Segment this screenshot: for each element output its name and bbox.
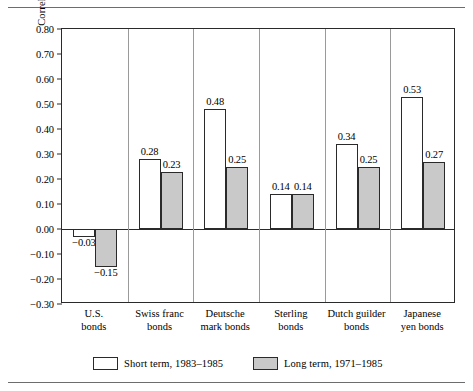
chart-plot-area: Correlation coefficient 0.800.700.600.50… xyxy=(61,28,455,303)
x-axis-category-label: Dutch guilderbonds xyxy=(324,308,390,333)
legend-label: Long term, 1971–1985 xyxy=(284,358,383,369)
y-axis-tick-mark xyxy=(57,153,62,154)
x-axis-category-label: U.S.bonds xyxy=(61,308,127,333)
y-axis-tick-mark xyxy=(57,253,62,254)
y-axis-tick-label: −0.10 xyxy=(30,249,57,260)
y-axis-tick-label: 0.80 xyxy=(36,24,57,35)
bar-value-label: 0.27 xyxy=(412,149,456,160)
legend-label: Short term, 1983–1985 xyxy=(124,358,223,369)
bar-value-label: 0.25 xyxy=(215,154,259,165)
category-label-line: Dutch guilder xyxy=(324,308,390,321)
category-label-line: bonds xyxy=(61,321,127,334)
y-axis-tick-mark xyxy=(57,78,62,79)
y-axis-tick-label: 0.30 xyxy=(36,149,57,160)
x-axis-category-label: Swiss francbonds xyxy=(127,308,193,333)
bar-value-label: 0.14 xyxy=(281,181,325,192)
y-axis-tick: 0.10 xyxy=(36,199,62,210)
y-axis-tick-mark xyxy=(57,53,62,54)
y-axis-tick: 0.60 xyxy=(36,74,62,85)
bar-long-term xyxy=(95,229,117,267)
y-axis-tick-label: −0.30 xyxy=(30,299,57,310)
y-axis-tick: 0.40 xyxy=(36,124,62,135)
figure-bottom-rule xyxy=(8,382,465,383)
y-axis-tick-label: 0.70 xyxy=(36,49,57,60)
legend-item-short-term: Short term, 1983–1985 xyxy=(93,357,223,370)
category-label-line: bonds xyxy=(258,321,324,334)
group-separator xyxy=(193,29,194,302)
bar-long-term xyxy=(292,194,314,229)
group-separator xyxy=(390,29,391,302)
group-separator xyxy=(325,29,326,302)
bar-long-term xyxy=(161,172,183,230)
bar-value-label: 0.23 xyxy=(150,159,194,170)
category-label-line: bonds xyxy=(127,321,193,334)
bar-value-label: 0.34 xyxy=(325,131,369,142)
category-label-line: bonds xyxy=(324,321,390,334)
category-label-line: Sterling xyxy=(258,308,324,321)
y-axis-tick-mark xyxy=(57,203,62,204)
bar-short-term xyxy=(139,159,161,229)
x-axis-category-label: Deutschemark bonds xyxy=(192,308,258,333)
y-axis-tick-mark xyxy=(57,278,62,279)
y-axis-tick-mark xyxy=(57,178,62,179)
category-label-line: mark bonds xyxy=(192,321,258,334)
bar-short-term xyxy=(73,229,95,237)
chart-legend: Short term, 1983–1985Long term, 1971–198… xyxy=(0,357,473,375)
bar-short-term xyxy=(270,194,292,229)
bar-value-label: −0.15 xyxy=(84,267,128,278)
y-axis-tick-label: 0.20 xyxy=(36,174,57,185)
category-label-line: Swiss franc xyxy=(127,308,193,321)
y-axis-tick-label: 0.50 xyxy=(36,99,57,110)
group-separator xyxy=(259,29,260,302)
figure-top-rule xyxy=(8,7,465,8)
bar-value-label: 0.28 xyxy=(128,146,172,157)
y-axis-tick-label: 0.10 xyxy=(36,199,57,210)
bar-value-label: 0.48 xyxy=(193,96,237,107)
y-axis-tick: 0.70 xyxy=(36,49,62,60)
y-axis-tick: 0.80 xyxy=(36,24,62,35)
y-axis-tick-mark xyxy=(57,28,62,29)
y-axis-tick-mark xyxy=(57,103,62,104)
y-axis-tick: 0.50 xyxy=(36,99,62,110)
y-axis-tick: 0.30 xyxy=(36,149,62,160)
group-separator xyxy=(128,29,129,302)
y-axis-tick-label: 0.60 xyxy=(36,74,57,85)
bar-short-term xyxy=(204,109,226,229)
category-label-line: yen bonds xyxy=(389,321,455,334)
x-axis-category-label: Sterlingbonds xyxy=(258,308,324,333)
y-axis-tick: −0.20 xyxy=(30,274,62,285)
category-label-line: Deutsche xyxy=(192,308,258,321)
category-label-line: U.S. xyxy=(61,308,127,321)
bar-value-label: 0.53 xyxy=(390,84,434,95)
y-axis-tick: −0.30 xyxy=(30,299,62,310)
y-axis-tick: 0.20 xyxy=(36,174,62,185)
y-axis-tick: −0.10 xyxy=(30,249,62,260)
bar-long-term xyxy=(358,167,380,230)
y-axis-tick-label: 0.00 xyxy=(36,224,57,235)
y-axis-tick-label: 0.40 xyxy=(36,124,57,135)
bar-long-term xyxy=(423,162,445,230)
y-axis-tick-mark xyxy=(57,303,62,304)
legend-swatch-long xyxy=(253,357,278,370)
legend-swatch-short xyxy=(93,357,118,370)
y-axis-tick-mark xyxy=(57,128,62,129)
y-axis-title: Correlation coefficient xyxy=(36,0,47,77)
category-label-line: Japanese xyxy=(389,308,455,321)
legend-item-long-term: Long term, 1971–1985 xyxy=(253,357,383,370)
y-axis-tick-label: −0.20 xyxy=(30,274,57,285)
zero-baseline xyxy=(62,229,454,230)
y-axis-tick: 0.00 xyxy=(36,224,62,235)
bar-long-term xyxy=(226,167,248,230)
bar-value-label: 0.25 xyxy=(347,154,391,165)
x-axis-category-label: Japaneseyen bonds xyxy=(389,308,455,333)
bar-short-term xyxy=(401,97,423,230)
